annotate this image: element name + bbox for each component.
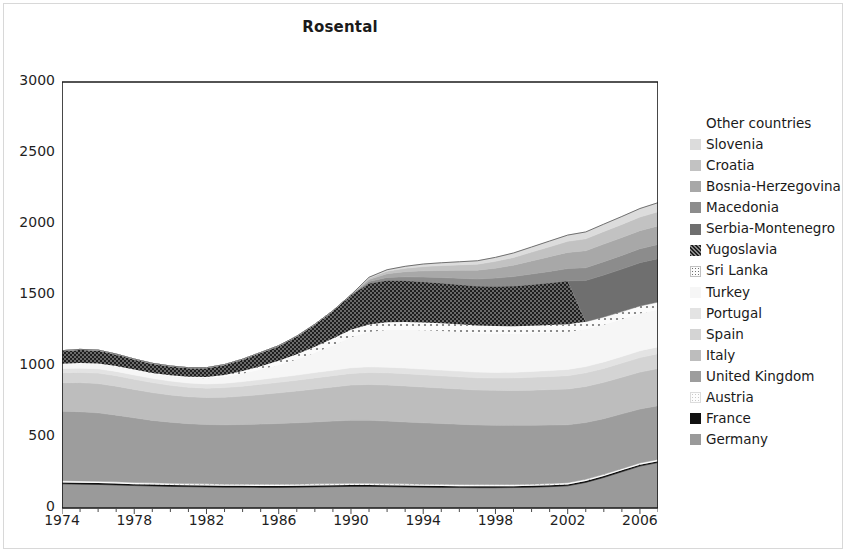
legend-item-label: Slovenia	[706, 138, 763, 152]
legend-item-united-kingdom[interactable]: United Kingdom	[690, 366, 846, 387]
legend-swatch-icon	[690, 245, 701, 256]
legend-item-label: Serbia-Montenegro	[706, 222, 835, 236]
legend-item-portugal[interactable]: Portugal	[690, 303, 846, 324]
legend-item-turkey[interactable]: Turkey	[690, 282, 846, 303]
legend-item-italy[interactable]: Italy	[690, 345, 846, 366]
legend-item-label: France	[706, 412, 751, 426]
legend-swatch-icon	[690, 160, 701, 171]
legend-swatch-icon	[690, 329, 701, 340]
legend-item-croatia[interactable]: Croatia	[690, 155, 846, 176]
legend-item-other-countries[interactable]: Other countries	[690, 113, 846, 134]
y-axis-tick-labels: 050010001500200025003000	[0, 80, 55, 506]
legend-swatch-icon	[690, 287, 701, 298]
legend-item-austria[interactable]: Austria	[690, 387, 846, 408]
x-tick-label: 1998	[478, 512, 514, 528]
legend-item-label: United Kingdom	[706, 370, 814, 384]
legend-swatch-icon	[690, 371, 701, 382]
legend-swatch-icon	[690, 118, 701, 129]
legend-swatch-icon	[690, 392, 701, 403]
x-tick-label: 1978	[116, 512, 152, 528]
legend-item-label: Spain	[706, 328, 744, 342]
legend-swatch-icon	[690, 139, 701, 150]
legend-item-germany[interactable]: Germany	[690, 429, 846, 450]
legend-item-label: Portugal	[706, 307, 762, 321]
y-tick-label: 3000	[3, 72, 55, 88]
legend-swatch-icon	[690, 350, 701, 361]
page-title: Rosental	[0, 18, 680, 36]
legend-swatch-icon	[690, 224, 701, 235]
legend-swatch-icon	[690, 266, 701, 277]
plot-area	[62, 80, 658, 506]
legend-item-label: Yugoslavia	[706, 243, 777, 257]
y-tick-label: 2500	[3, 143, 55, 159]
legend-item-label: Sri Lanka	[706, 264, 768, 278]
legend-swatch-icon	[690, 434, 701, 445]
legend-swatch-icon	[690, 181, 701, 192]
legend-item-france[interactable]: France	[690, 408, 846, 429]
x-tick-label: 2002	[550, 512, 586, 528]
legend-swatch-icon	[690, 413, 701, 424]
x-tick-label: 2006	[622, 512, 658, 528]
x-tick-label: 1982	[189, 512, 225, 528]
x-tick-label: 1994	[405, 512, 441, 528]
y-tick-label: 500	[3, 427, 55, 443]
y-tick-label: 1500	[3, 285, 55, 301]
legend-swatch-icon	[690, 308, 701, 319]
legend-item-label: Austria	[706, 391, 754, 405]
legend-item-macedonia[interactable]: Macedonia	[690, 197, 846, 218]
legend-item-label: Germany	[706, 433, 768, 447]
y-tick-label: 1000	[3, 356, 55, 372]
legend-item-label: Bosnia-Herzegovina	[706, 180, 841, 194]
y-tick-label: 2000	[3, 214, 55, 230]
legend-item-label: Croatia	[706, 159, 755, 173]
legend-item-spain[interactable]: Spain	[690, 324, 846, 345]
chart-page: Rosental 050010001500200025003000 197419…	[0, 0, 846, 552]
legend-item-label: Other countries	[706, 117, 811, 131]
legend-item-bosnia-herzegovina[interactable]: Bosnia-Herzegovina	[690, 176, 846, 197]
stacked-area-chart	[62, 80, 658, 516]
chart-legend: Other countriesSloveniaCroatiaBosnia-Her…	[690, 113, 846, 451]
legend-item-label: Italy	[706, 349, 735, 363]
legend-item-label: Macedonia	[706, 201, 779, 215]
legend-item-yugoslavia[interactable]: Yugoslavia	[690, 240, 846, 261]
legend-item-serbia-montenegro[interactable]: Serbia-Montenegro	[690, 218, 846, 239]
x-tick-label: 1990	[333, 512, 369, 528]
x-axis-tick-labels: 197419781982198619901994199820022006	[62, 512, 662, 542]
legend-swatch-icon	[690, 202, 701, 213]
legend-item-label: Turkey	[706, 286, 750, 300]
x-tick-label: 1974	[44, 512, 80, 528]
legend-item-slovenia[interactable]: Slovenia	[690, 134, 846, 155]
x-tick-label: 1986	[261, 512, 297, 528]
legend-item-sri-lanka[interactable]: Sri Lanka	[690, 261, 846, 282]
